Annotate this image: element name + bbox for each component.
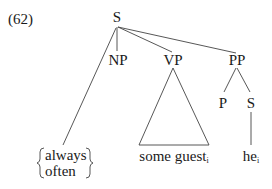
node-np: NP: [108, 53, 127, 68]
he-text: he: [243, 148, 257, 164]
example-number: (62): [8, 12, 33, 27]
edge-s-adverb: [63, 28, 116, 145]
some-guest-index: i: [206, 156, 208, 165]
edge-s-pp: [118, 27, 236, 53]
terminal-he: hei: [243, 149, 259, 168]
node-vp: VP: [163, 53, 182, 68]
some-guest-text: some guest: [139, 148, 206, 164]
terminal-some-guest: some guesti: [139, 149, 208, 168]
vp-triangle: [139, 68, 209, 145]
edge-s-vp: [118, 27, 172, 52]
adverb-always: always: [45, 148, 87, 163]
node-pp: PP: [229, 53, 246, 68]
left-brace: [37, 148, 44, 178]
edge-pp-s: [237, 68, 250, 92]
node-p: P: [219, 96, 227, 111]
node-s-root: S: [113, 10, 121, 25]
node-s-embedded: S: [247, 96, 255, 111]
edge-pp-p: [224, 68, 236, 92]
he-index: i: [257, 156, 259, 165]
adverb-often: often: [45, 164, 76, 179]
right-brace: [86, 148, 93, 178]
syntax-tree-lines: [0, 0, 272, 189]
